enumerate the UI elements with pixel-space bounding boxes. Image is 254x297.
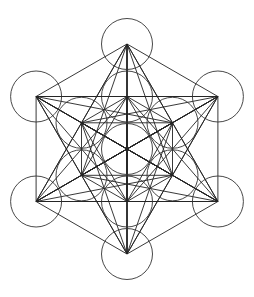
connecting-line: [36, 44, 127, 97]
connecting-line: [127, 44, 218, 97]
connecting-line: [127, 202, 218, 255]
connecting-line: [82, 44, 128, 175]
metatrons-cube-diagram: [0, 0, 254, 297]
connecting-line: [82, 123, 128, 254]
connecting-line: [36, 202, 127, 255]
connecting-lines: [36, 44, 218, 254]
